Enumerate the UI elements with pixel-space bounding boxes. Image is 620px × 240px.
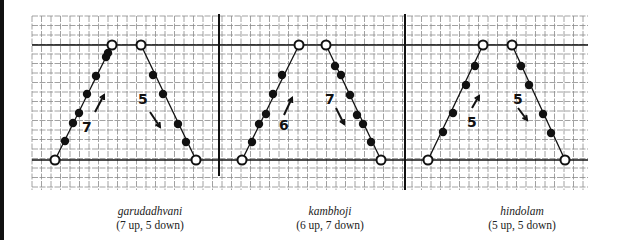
note-dot	[92, 72, 100, 80]
note-dot	[517, 62, 525, 70]
note-dot	[83, 90, 91, 98]
note-counts: (5 up, 5 down)	[432, 218, 612, 232]
note-dot	[525, 81, 533, 89]
note-dot	[255, 120, 263, 128]
note-dot	[449, 109, 457, 117]
note-dot	[159, 90, 167, 98]
caption-kambhoji: kambhoji (6 up, 7 down)	[240, 204, 420, 232]
note-dot	[278, 71, 286, 79]
note-dot	[359, 120, 367, 128]
note-dot	[69, 119, 77, 127]
descent-count-label: 7	[325, 91, 335, 107]
note-dot	[174, 120, 182, 128]
ascent-count-label: 6	[279, 117, 289, 133]
tonic-circle	[137, 41, 146, 50]
note-dot	[262, 110, 270, 118]
note-dot	[367, 138, 375, 146]
note-dot	[462, 81, 470, 89]
tonic-circle	[424, 156, 433, 165]
tonic-circle	[479, 41, 488, 50]
descent-count-label: 5	[513, 91, 523, 107]
raga-name: kambhoji	[240, 204, 420, 218]
down-arrow-icon	[150, 112, 160, 127]
note-dot	[182, 138, 190, 146]
tonic-circle	[238, 156, 247, 165]
note-counts: (7 up, 5 down)	[60, 218, 240, 232]
note-dot	[337, 71, 345, 79]
up-arrow-icon	[95, 95, 104, 112]
tonic-circle	[51, 156, 60, 165]
panel-hindolam: 55	[424, 41, 570, 165]
note-dot	[471, 62, 479, 70]
note-dot	[75, 109, 83, 117]
raga-panels: 756755	[51, 41, 570, 165]
tonic-circle	[322, 41, 331, 50]
ascent-count-label: 5	[467, 114, 477, 130]
note-dot	[149, 71, 157, 79]
ascent-count-label: 7	[82, 119, 92, 135]
note-dot	[269, 90, 277, 98]
note-dot	[353, 111, 361, 119]
tonic-circle	[561, 156, 570, 165]
caption-garudadhvani: garudadhvani (7 up, 5 down)	[60, 204, 240, 232]
tonic-circle	[377, 156, 386, 165]
raga-name: hindolam	[432, 204, 612, 218]
reference-lines	[32, 14, 588, 190]
note-dot	[539, 110, 547, 118]
panel-garudadhvani: 75	[51, 41, 201, 165]
note-dot	[346, 91, 354, 99]
tonic-circle	[108, 41, 117, 50]
note-counts: (6 up, 7 down)	[240, 218, 420, 232]
note-dot	[248, 138, 256, 146]
tonic-circle	[192, 156, 201, 165]
note-dot	[331, 62, 339, 70]
caption-hindolam: hindolam (5 up, 5 down)	[432, 204, 612, 232]
raga-name: garudadhvani	[60, 204, 240, 218]
tonic-circle	[295, 41, 304, 50]
note-dot	[439, 128, 447, 136]
note-dot	[547, 129, 555, 137]
tonic-circle	[508, 41, 517, 50]
note-dot	[61, 137, 69, 145]
descent-count-label: 5	[138, 91, 148, 107]
